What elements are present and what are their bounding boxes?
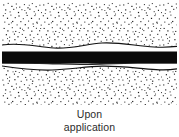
black-band [2,52,177,64]
caption-line-2: application [0,121,179,134]
figure-container: Upon application [0,0,179,137]
caption-line-1: Upon [0,108,179,121]
figure-caption: Upon application [0,108,179,133]
cross-section-svg [2,2,177,105]
cross-section-illustration [2,2,177,105]
